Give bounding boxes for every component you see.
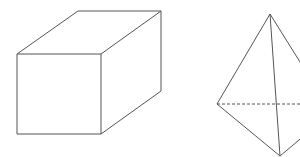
tetra-edge-apex-left <box>217 14 270 104</box>
cube-right-face <box>101 11 161 134</box>
tetra-edge-apex-right <box>270 14 300 70</box>
geometry-figure <box>0 0 300 157</box>
tetra-edge-apex-bottom <box>270 14 280 156</box>
tetra-edge-bottom-right <box>280 135 300 156</box>
cube-top-face <box>17 11 161 54</box>
tetrahedron <box>217 14 300 156</box>
cube-front-face <box>17 54 101 134</box>
tetra-edge-left-bottom <box>217 104 280 156</box>
cube <box>17 11 161 134</box>
